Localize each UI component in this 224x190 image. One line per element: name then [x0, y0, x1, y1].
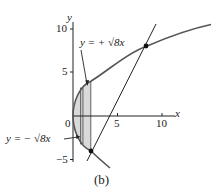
y-tick-5: 5 [62, 66, 68, 77]
figure-caption: (b) [94, 173, 109, 186]
x-tick-10: 10 [156, 118, 167, 129]
x-tick-0: 0 [65, 118, 71, 129]
y-axis-label: y [67, 12, 72, 23]
upper-curve-annotation: y = + √8x [80, 37, 124, 48]
x-axis-label: x [175, 108, 180, 119]
intersection-point-8-8 [144, 44, 149, 49]
y-tick-neg5: −5 [56, 154, 68, 165]
intersection-point-2-neg4 [89, 149, 94, 154]
graph-canvas [0, 0, 224, 190]
y-tick-10: 10 [56, 23, 67, 34]
x-tick-5: 5 [114, 118, 120, 129]
lower-curve-annotation: y = − √8x [6, 133, 50, 144]
